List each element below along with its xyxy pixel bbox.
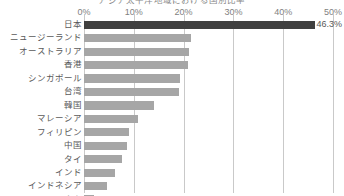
bar-row[interactable]: 香港 <box>0 58 344 71</box>
category-label: インド <box>55 167 82 178</box>
bar-row[interactable]: 日本46.3% <box>0 18 344 31</box>
bar-value-label: 2.0% <box>96 194 117 196</box>
bar-row[interactable]: インド <box>0 166 344 179</box>
category-label: 香港 <box>64 59 82 70</box>
category-label: フィリピン <box>37 127 82 138</box>
bar[interactable] <box>84 169 115 177</box>
bar[interactable] <box>84 182 107 190</box>
bar-rows: 日本46.3%ニュージーランドオーストラリア香港シンガポール台湾韓国マレーシアフ… <box>0 18 344 193</box>
bar[interactable] <box>84 21 315 29</box>
bar-row[interactable]: フィリピン <box>0 126 344 139</box>
bar[interactable] <box>84 128 129 136</box>
bar[interactable] <box>84 61 188 69</box>
category-label: マレーシア <box>37 113 82 124</box>
bar-row[interactable]: 韓国 <box>0 99 344 112</box>
category-label: 韓国 <box>64 100 82 111</box>
bar-row[interactable]: 中国 <box>0 139 344 152</box>
bar[interactable] <box>84 155 122 163</box>
bar-row[interactable]: オーストラリア <box>0 45 344 58</box>
bar[interactable] <box>84 48 189 56</box>
bar[interactable] <box>84 88 179 96</box>
x-axis-tick-labels: 0%10%20%30%40%50% <box>0 7 344 18</box>
category-label: オーストラリア <box>19 46 82 57</box>
bar-row[interactable]: インドネシア <box>0 179 344 192</box>
category-label: ベトナム <box>46 194 82 196</box>
category-label: 日本 <box>64 19 82 30</box>
bar-row[interactable]: マレーシア <box>0 112 344 125</box>
category-label: タイ <box>64 154 82 165</box>
bar-row[interactable]: シンガポール <box>0 72 344 85</box>
bar[interactable] <box>84 34 191 42</box>
bar-row[interactable]: ベトナム2.0% <box>0 193 344 196</box>
bar[interactable] <box>84 195 94 196</box>
bar-value-label: 46.3% <box>317 19 343 30</box>
bar[interactable] <box>84 74 180 82</box>
category-label: シンガポール <box>28 73 82 84</box>
bar[interactable] <box>84 142 127 150</box>
bar[interactable] <box>84 101 154 109</box>
chart-title: アジア太平洋地域における国別比率 <box>0 0 344 5</box>
category-label: ニュージーランド <box>10 32 82 43</box>
category-label: 中国 <box>64 140 82 151</box>
bar[interactable] <box>84 115 138 123</box>
bar-chart: アジア太平洋地域における国別比率 0%10%20%30%40%50% 日本46.… <box>0 0 344 196</box>
category-label: インドネシア <box>28 180 82 191</box>
bar-row[interactable]: 台湾 <box>0 85 344 98</box>
bar-row[interactable]: タイ <box>0 153 344 166</box>
bar-row[interactable]: ニュージーランド <box>0 31 344 44</box>
category-label: 台湾 <box>64 86 82 97</box>
